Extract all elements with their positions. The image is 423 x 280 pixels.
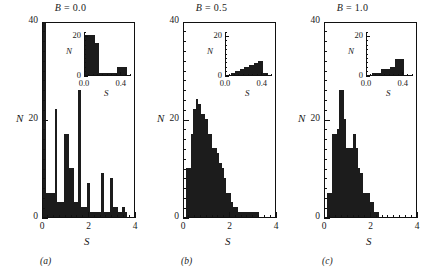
inset-y-tick-minor xyxy=(225,67,227,68)
panel-a-title: B = 0.0 xyxy=(0,2,141,13)
x-tick-minor xyxy=(206,215,207,218)
inset-x-tick-minor xyxy=(234,74,235,76)
x-tick-label: 2 xyxy=(218,221,242,231)
y-tick-minor xyxy=(183,208,186,209)
x-tick-minor xyxy=(53,215,54,218)
inset-x-tick-minor xyxy=(93,74,94,76)
inset-y-tick-minor xyxy=(225,58,227,59)
y-tick-major xyxy=(183,22,189,23)
x-tick-major xyxy=(370,212,371,218)
x-tick-major xyxy=(229,212,230,218)
y-tick-minor xyxy=(324,169,327,170)
inset-y-tick-minor xyxy=(366,40,368,41)
y-tick-minor xyxy=(324,61,327,62)
x-tick-minor xyxy=(329,215,330,218)
x-tick-major xyxy=(183,212,184,218)
x-tick-minor xyxy=(123,215,124,218)
x-tick-minor xyxy=(405,215,406,218)
histogram-bar xyxy=(124,212,127,217)
y-tick-major xyxy=(324,22,330,23)
y-tick-minor xyxy=(324,71,327,72)
x-tick-minor xyxy=(194,215,195,218)
x-tick-minor xyxy=(264,215,265,218)
inset-x-tick-minor xyxy=(271,74,272,76)
histogram-bar xyxy=(101,173,104,217)
y-tick-minor xyxy=(183,90,186,91)
x-tick-minor xyxy=(358,215,359,218)
inset-x-tick-minor xyxy=(116,74,117,76)
inset-y-tick-minor xyxy=(84,49,86,50)
inset-x-tick-minor xyxy=(107,74,108,76)
inset-y-tick-minor xyxy=(366,32,368,33)
inset-x-tick-minor xyxy=(88,74,89,76)
inset-x-tick-label: 0.0 xyxy=(73,78,95,88)
x-tick-minor xyxy=(188,215,189,218)
y-tick-minor xyxy=(324,41,327,42)
y-tick-minor xyxy=(42,159,45,160)
x-tick-minor xyxy=(235,215,236,218)
inset-y-tick-minor xyxy=(84,32,86,33)
y-tick-minor xyxy=(42,100,45,101)
y-tick-minor xyxy=(42,90,45,91)
y-tick-minor xyxy=(42,149,45,150)
inset-x-tick-label: 0.0 xyxy=(355,78,377,88)
inset-y-tick-minor xyxy=(225,40,227,41)
inset-x-tick-minor xyxy=(261,74,262,76)
panel-a-caption: (a) xyxy=(40,256,51,266)
x-tick-minor xyxy=(223,215,224,218)
y-tick-minor xyxy=(42,41,45,42)
inset-x-tick-minor xyxy=(229,74,230,76)
y-tick-minor xyxy=(183,169,186,170)
histogram-bar xyxy=(78,90,81,217)
y-tick-minor xyxy=(183,80,186,81)
x-tick-label: 0 xyxy=(171,221,195,231)
y-tick-minor xyxy=(324,198,327,199)
inset-x-tick-minor xyxy=(412,74,413,76)
inset-x-tick-minor xyxy=(120,74,121,76)
y-tick-label: 40 xyxy=(153,15,179,25)
y-tick-minor xyxy=(183,139,186,140)
inset-y-tick-minor xyxy=(225,36,227,37)
inset-y-tick-minor xyxy=(225,54,227,55)
x-tick-label: 0 xyxy=(312,221,336,231)
x-tick-minor xyxy=(353,215,354,218)
x-tick-minor xyxy=(105,215,106,218)
x-tick-minor xyxy=(94,215,95,218)
inset-y-tick-minor xyxy=(84,45,86,46)
inset-x-tick-minor xyxy=(225,74,226,76)
inset-x-tick-minor xyxy=(130,74,131,76)
y-tick-minor xyxy=(183,159,186,160)
inset-y-tick-label: 20 xyxy=(203,30,222,40)
inset-y-tick-minor xyxy=(84,36,86,37)
inset-y-tick-minor xyxy=(366,54,368,55)
inset-x-tick-minor xyxy=(84,74,85,76)
y-tick-minor xyxy=(42,139,45,140)
x-tick-minor xyxy=(270,215,271,218)
y-tick-minor xyxy=(42,178,45,179)
inset-y-tick-minor xyxy=(225,32,227,33)
x-tick-minor xyxy=(341,215,342,218)
x-tick-minor xyxy=(59,215,60,218)
x-tick-minor xyxy=(111,215,112,218)
inset-x-tick-minor xyxy=(252,74,253,76)
y-tick-minor xyxy=(42,61,45,62)
inset-y-tick-minor xyxy=(84,58,86,59)
inset-x-tick-minor xyxy=(366,74,367,76)
inset-y-tick-minor xyxy=(366,62,368,63)
y-tick-minor xyxy=(183,51,186,52)
y-tick-label: 20 xyxy=(153,113,179,123)
panel-b: B = 0.5 N S (b) N S 020400240200.00.4 xyxy=(141,0,282,280)
y-tick-minor xyxy=(183,31,186,32)
y-tick-minor xyxy=(183,100,186,101)
inset-x-tick-minor xyxy=(243,74,244,76)
y-tick-minor xyxy=(183,178,186,179)
x-tick-minor xyxy=(241,215,242,218)
panel-b-inset-histogram xyxy=(226,32,271,75)
x-tick-minor xyxy=(399,215,400,218)
x-tick-major xyxy=(324,212,325,218)
y-tick-minor xyxy=(42,110,45,111)
panel-a-inset-ylabel: N xyxy=(66,46,72,56)
x-tick-label: 2 xyxy=(77,221,101,231)
inset-y-tick-minor xyxy=(366,36,368,37)
inset-y-tick-minor xyxy=(225,49,227,50)
